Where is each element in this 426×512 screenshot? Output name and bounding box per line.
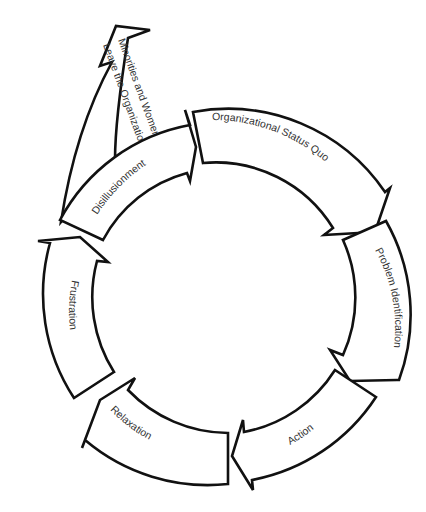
stage-organizational-status-quo: Organizational Status Quo — [193, 109, 390, 235]
cycle-diagram: Minorities and Women Leave the Organizat… — [0, 0, 426, 512]
stage-frustration: Frustration — [38, 237, 114, 398]
stage-action: Action — [232, 370, 376, 490]
stage-relaxation: Relaxation — [82, 378, 228, 485]
stage-problem-identification: Problem Identification — [330, 221, 411, 381]
